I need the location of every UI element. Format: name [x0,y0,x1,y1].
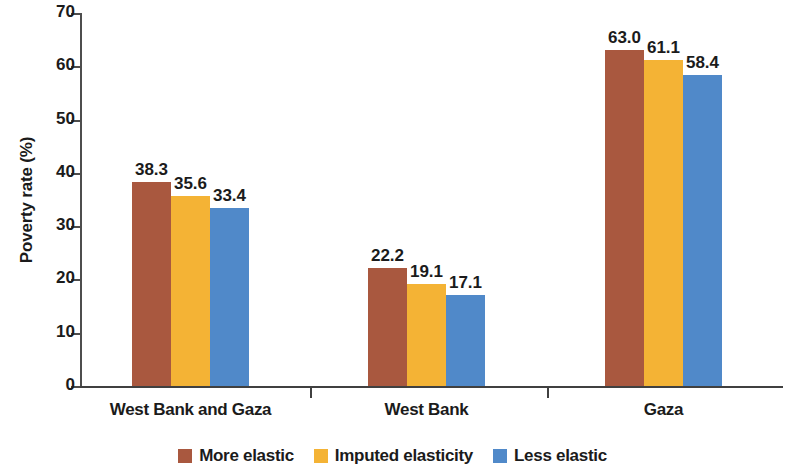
bar [446,295,485,386]
bar [605,50,644,386]
x-category-label: West Bank and Gaza [81,400,301,420]
legend-label: Imputed elasticity [335,446,473,466]
y-tick-label: 10 [56,322,75,342]
bar [683,75,722,386]
chart-legend: More elasticImputed elasticityLess elast… [0,446,785,466]
legend-swatch-icon [314,449,328,463]
bar-value-label: 33.4 [202,186,257,206]
y-tick-label: 20 [56,268,75,288]
legend-item[interactable]: Imputed elasticity [314,446,473,466]
legend-swatch-icon [493,449,507,463]
bar-value-label: 17.1 [438,273,493,293]
y-tick-label: 30 [56,215,75,235]
y-tick-label: 70 [56,2,75,22]
legend-item[interactable]: More elastic [178,446,294,466]
x-category-label: Gaza [554,400,774,420]
x-axis-tick [547,387,549,398]
y-tick-label: 50 [56,109,75,129]
legend-swatch-icon [178,449,192,463]
y-axis-title: Poverty rate (%) [17,100,37,300]
y-tick-label: 60 [56,55,75,75]
bar [368,268,407,386]
bar [210,208,249,386]
x-category-label: West Bank [317,400,537,420]
bar [644,60,683,386]
legend-item[interactable]: Less elastic [493,446,607,466]
legend-label: More elastic [199,446,294,466]
bar [171,196,210,386]
y-tick-label: 0 [66,375,75,395]
x-axis-line [78,386,783,388]
bar-value-label: 58.4 [675,53,730,73]
x-axis-tick [310,387,312,398]
poverty-rate-bar-chart: Poverty rate (%) 010203040506070 38.335.… [0,0,785,472]
legend-label: Less elastic [514,446,607,466]
bar [132,182,171,386]
y-tick-label: 40 [56,162,75,182]
plot-area: 010203040506070 38.335.633.422.219.117.1… [80,13,780,386]
bar [407,284,446,386]
